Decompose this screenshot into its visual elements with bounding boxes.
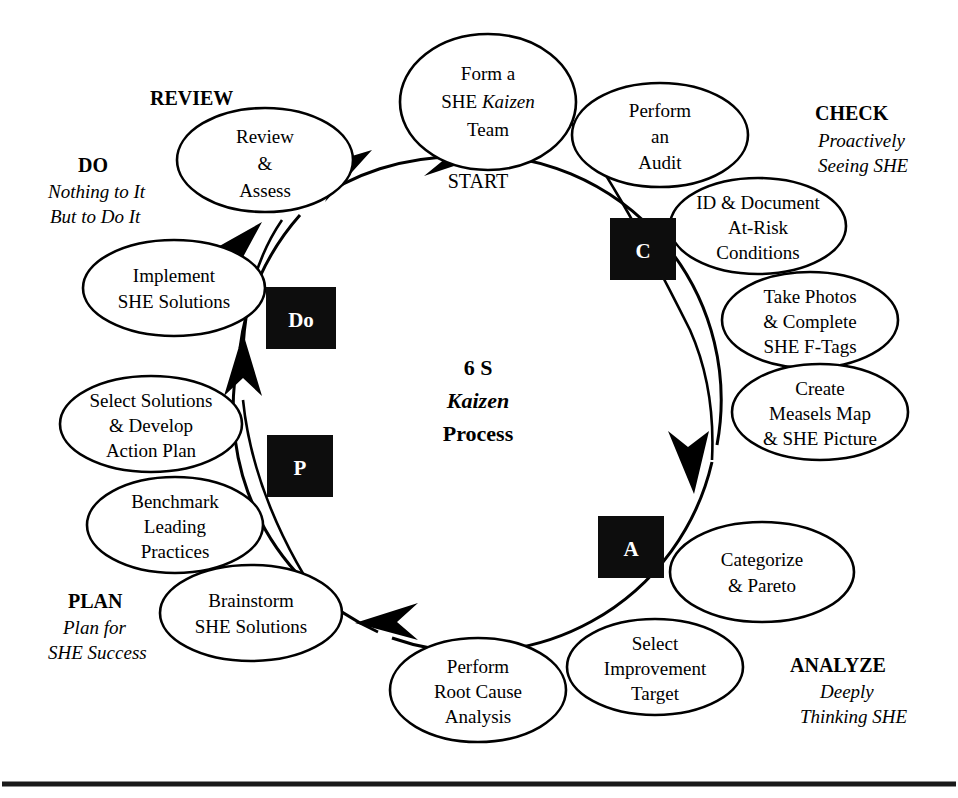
node-perform-audit-line3: Audit bbox=[638, 152, 682, 173]
center-title-line1: 6 S bbox=[464, 355, 493, 380]
node-implement[interactable]: Implement SHE Solutions bbox=[83, 240, 265, 336]
phase-label-check: CHECK Proactively Seeing SHE bbox=[815, 102, 909, 176]
kaizen-process-diagram: Form a SHE Kaizen Team Perform an Audit … bbox=[0, 0, 958, 798]
node-form-team-italic: Kaizen bbox=[481, 91, 535, 112]
node-implement-line2: SHE Solutions bbox=[118, 291, 230, 312]
phase-review-head: REVIEW bbox=[150, 87, 233, 109]
phase-check-sub1: Proactively bbox=[817, 130, 905, 151]
phase-do-sub2: But to Do It bbox=[50, 206, 141, 227]
node-id-document-line2: At-Risk bbox=[728, 217, 789, 238]
node-root-cause-line1: Perform bbox=[447, 656, 509, 677]
phase-analyze-sub1: Deeply bbox=[819, 681, 874, 702]
node-review-assess[interactable]: Review & Assess bbox=[177, 108, 353, 212]
node-select-develop-line2: & Develop bbox=[109, 415, 193, 436]
start-label: START bbox=[448, 170, 509, 192]
badge-do-label: Do bbox=[288, 308, 314, 332]
phase-label-analyze: ANALYZE Deeply Thinking SHE bbox=[790, 654, 908, 727]
node-measels-map-line1: Create bbox=[795, 378, 845, 399]
node-root-cause-line2: Root Cause bbox=[434, 681, 522, 702]
center-title-line2: Kaizen bbox=[446, 388, 509, 413]
node-form-team-line1: Form a bbox=[461, 63, 516, 84]
phase-label-review: REVIEW bbox=[150, 87, 233, 109]
badge-do[interactable]: Do bbox=[266, 287, 336, 349]
node-take-photos-line3: SHE F-Tags bbox=[763, 336, 856, 357]
phase-do-head: DO bbox=[78, 154, 108, 176]
node-select-target-line2: Improvement bbox=[604, 658, 707, 679]
phase-label-do: DO Nothing to It But to Do It bbox=[47, 154, 146, 227]
node-root-cause[interactable]: Perform Root Cause Analysis bbox=[390, 638, 566, 742]
node-take-photos-line1: Take Photos bbox=[763, 286, 856, 307]
node-id-document-line3: Conditions bbox=[716, 242, 799, 263]
node-form-team-line2: SHE Kaizen bbox=[441, 91, 534, 112]
node-benchmark-line3: Practices bbox=[141, 541, 210, 562]
diagram-canvas: Form a SHE Kaizen Team Perform an Audit … bbox=[0, 0, 958, 798]
phase-plan-sub2: SHE Success bbox=[48, 642, 147, 663]
badge-c-label: C bbox=[635, 239, 650, 263]
phase-check-sub2: Seeing SHE bbox=[818, 155, 909, 176]
node-select-target[interactable]: Select Improvement Target bbox=[567, 619, 743, 715]
node-review-assess-line1: Review bbox=[236, 126, 294, 147]
node-implement-line1: Implement bbox=[133, 265, 216, 286]
badge-a[interactable]: A bbox=[598, 516, 664, 578]
node-review-assess-line2: & bbox=[258, 153, 273, 174]
node-perform-audit-line1: Perform bbox=[629, 100, 691, 121]
phase-plan-head: PLAN bbox=[68, 590, 123, 612]
badge-p-label: P bbox=[294, 456, 307, 480]
node-brainstorm-line2: SHE Solutions bbox=[195, 616, 307, 637]
node-measels-map[interactable]: Create Measels Map & SHE Picture bbox=[732, 364, 908, 460]
node-select-develop-line1: Select Solutions bbox=[90, 390, 213, 411]
badge-c[interactable]: C bbox=[610, 218, 676, 280]
arrowhead-check-to-analyze bbox=[668, 431, 709, 494]
node-benchmark-line1: Benchmark bbox=[131, 491, 219, 512]
node-select-develop[interactable]: Select Solutions & Develop Action Plan bbox=[60, 376, 242, 472]
node-categorize-line2: & Pareto bbox=[728, 575, 796, 596]
center-title: 6 S Kaizen Process bbox=[443, 355, 514, 446]
node-select-target-line3: Target bbox=[631, 683, 680, 704]
phase-plan-sub1: Plan for bbox=[62, 617, 126, 638]
node-perform-audit[interactable]: Perform an Audit bbox=[572, 83, 748, 187]
node-form-team[interactable]: Form a SHE Kaizen Team bbox=[400, 34, 576, 170]
node-brainstorm[interactable]: Brainstorm SHE Solutions bbox=[160, 565, 342, 661]
node-id-document[interactable]: ID & Document At-Risk Conditions bbox=[670, 178, 846, 274]
phase-analyze-sub2: Thinking SHE bbox=[800, 706, 908, 727]
arrowhead-analyze-to-plan bbox=[355, 603, 418, 640]
center-title-line3: Process bbox=[443, 421, 514, 446]
node-form-team-line3: Team bbox=[467, 119, 509, 140]
node-benchmark[interactable]: Benchmark Leading Practices bbox=[87, 477, 263, 573]
phase-label-plan: PLAN Plan for SHE Success bbox=[48, 590, 147, 663]
node-categorize-line1: Categorize bbox=[721, 549, 803, 570]
node-benchmark-line2: Leading bbox=[144, 516, 207, 537]
node-brainstorm-line1: Brainstorm bbox=[208, 590, 294, 611]
node-measels-map-line2: Measels Map bbox=[769, 403, 871, 424]
node-take-photos-line2: & Complete bbox=[763, 311, 856, 332]
node-root-cause-line3: Analysis bbox=[445, 706, 512, 727]
node-categorize[interactable]: Categorize & Pareto bbox=[670, 522, 854, 622]
phase-do-sub1: Nothing to It bbox=[47, 181, 146, 202]
node-select-develop-line3: Action Plan bbox=[106, 440, 197, 461]
node-select-target-line1: Select bbox=[632, 633, 679, 654]
node-take-photos[interactable]: Take Photos & Complete SHE F-Tags bbox=[722, 272, 898, 368]
node-review-assess-line3: Assess bbox=[239, 180, 291, 201]
badge-p[interactable]: P bbox=[267, 435, 333, 497]
node-perform-audit-line2: an bbox=[651, 126, 669, 147]
phase-analyze-head: ANALYZE bbox=[790, 654, 886, 676]
node-id-document-line1: ID & Document bbox=[696, 192, 820, 213]
badge-a-label: A bbox=[623, 537, 639, 561]
node-measels-map-line3: & SHE Picture bbox=[763, 428, 877, 449]
phase-check-head: CHECK bbox=[815, 102, 889, 124]
